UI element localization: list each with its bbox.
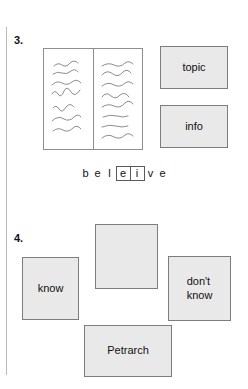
word-letter-e1: e xyxy=(92,168,104,179)
label-box-dont-know-line2: know xyxy=(187,289,213,301)
label-box-empty[interactable] xyxy=(95,224,158,289)
book-page-right xyxy=(94,49,143,149)
book-page-left xyxy=(44,49,93,149)
figure-canvas: 3. xyxy=(0,0,248,389)
word-letter-e2: e xyxy=(157,168,169,179)
boxed-letter-i: i xyxy=(130,167,144,180)
label-box-dont-know[interactable]: don't know xyxy=(168,256,231,321)
open-book-illustration xyxy=(43,48,143,150)
word-letter-l: l xyxy=(104,168,116,179)
boxed-letter-pair[interactable]: e i xyxy=(116,166,145,181)
label-box-dont-know-line1: don't xyxy=(187,275,211,287)
word-letter-b: b xyxy=(80,168,92,179)
label-box-know[interactable]: know xyxy=(22,257,79,320)
label-box-info[interactable]: info xyxy=(160,105,228,148)
squiggle-text-lines-right xyxy=(94,49,143,149)
label-box-dont-know-text: don't know xyxy=(187,275,213,303)
squiggle-text-lines-left xyxy=(44,49,93,149)
label-box-petrarch[interactable]: Petrarch xyxy=(84,325,172,377)
label-box-topic[interactable]: topic xyxy=(160,46,228,89)
boxed-letter-e: e xyxy=(117,167,130,180)
panel-3-number: 3. xyxy=(14,35,23,46)
label-box-info-text: info xyxy=(185,120,203,134)
panel-4-number: 4. xyxy=(14,233,23,244)
label-box-petrarch-text: Petrarch xyxy=(107,344,149,358)
left-vertical-rule xyxy=(6,27,7,375)
word-spelling-exercise: b e l e i v e xyxy=(0,163,248,183)
word-letter-v: v xyxy=(145,168,157,179)
label-box-topic-text: topic xyxy=(182,61,205,75)
label-box-know-text: know xyxy=(38,282,64,296)
